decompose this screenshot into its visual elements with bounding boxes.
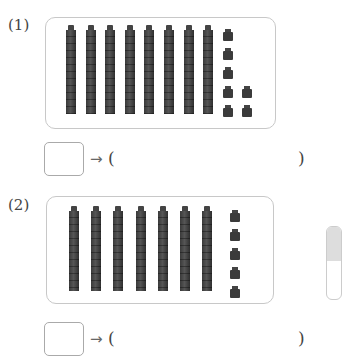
ten-rod bbox=[164, 30, 174, 114]
unit-cube bbox=[230, 270, 240, 279]
problem-2-label: (2) bbox=[8, 196, 29, 214]
problem-1-answer-box[interactable] bbox=[44, 142, 84, 176]
arrow-icon: → bbox=[90, 330, 103, 348]
problem-1-blocks-box bbox=[45, 17, 276, 129]
ten-rod bbox=[113, 211, 123, 291]
arrow-icon: → bbox=[90, 150, 103, 168]
ten-rod bbox=[202, 211, 212, 291]
unit-cube bbox=[242, 89, 252, 98]
ten-rod bbox=[66, 30, 76, 114]
problem-2-paren-close: ) bbox=[298, 328, 305, 348]
problem-2-blocks-box bbox=[46, 196, 274, 304]
unit-cube bbox=[223, 70, 233, 79]
unit-cube bbox=[230, 251, 240, 260]
unit-cube bbox=[223, 51, 233, 60]
unit-cube bbox=[242, 108, 252, 117]
problem-2-answer-box[interactable] bbox=[44, 322, 84, 356]
ten-rod bbox=[105, 30, 115, 114]
ten-rod bbox=[136, 211, 146, 291]
ten-rod bbox=[184, 30, 194, 114]
problem-1-label: (1) bbox=[8, 16, 29, 34]
ten-rod bbox=[69, 211, 79, 291]
ten-rod bbox=[125, 30, 135, 114]
problem-1-paren-close: ) bbox=[298, 148, 305, 168]
unit-cube bbox=[223, 89, 233, 98]
unit-cube bbox=[230, 232, 240, 241]
ten-rod bbox=[203, 30, 213, 114]
ten-rod bbox=[86, 30, 96, 114]
side-panel-edge bbox=[326, 226, 342, 300]
ten-rod bbox=[144, 30, 154, 114]
ten-rod bbox=[91, 211, 101, 291]
ten-rod bbox=[180, 211, 190, 291]
ten-rod bbox=[158, 211, 168, 291]
unit-cube bbox=[223, 108, 233, 117]
problem-2-paren-open: ( bbox=[108, 328, 115, 348]
problem-1-paren-open: ( bbox=[108, 148, 115, 168]
unit-cube bbox=[230, 289, 240, 298]
unit-cube bbox=[223, 32, 233, 41]
unit-cube bbox=[230, 213, 240, 222]
